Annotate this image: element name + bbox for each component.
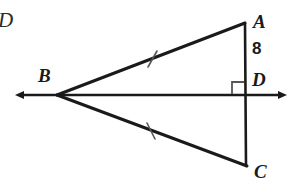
segment-ac bbox=[245, 23, 246, 166]
point-label-d: D bbox=[252, 70, 266, 89]
vertex-label-c: C bbox=[254, 162, 267, 181]
segment-ba bbox=[57, 23, 245, 95]
geometry-canvas bbox=[0, 0, 295, 190]
segment-bc bbox=[57, 95, 247, 166]
right-angle-marker bbox=[232, 82, 244, 94]
vertex-label-b: B bbox=[38, 66, 51, 85]
corner-label-d: D bbox=[0, 10, 13, 31]
vertex-label-a: A bbox=[253, 12, 266, 31]
geometry-figure: D A 8 D B C bbox=[0, 0, 295, 190]
segment-length-label-ad: 8 bbox=[252, 40, 261, 57]
